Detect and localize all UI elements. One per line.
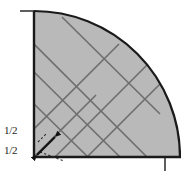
geometry-figure: 1/2 1/2 <box>0 0 181 171</box>
label-half-lower: 1/2 <box>4 144 17 156</box>
figure-canvas: 1/2 1/2 <box>0 0 181 171</box>
label-half-upper: 1/2 <box>4 124 17 136</box>
